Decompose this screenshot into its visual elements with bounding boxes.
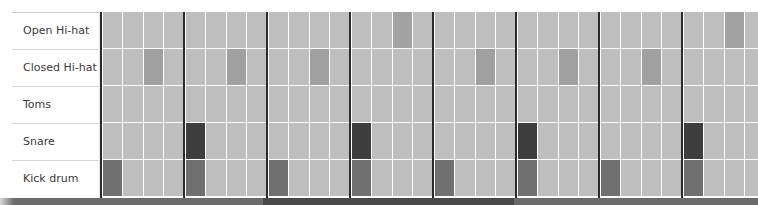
step-cell-kick-17-active[interactable]	[435, 160, 454, 196]
step-cell-toms-30[interactable]	[704, 86, 724, 122]
step-cell-snare-23[interactable]	[559, 123, 578, 159]
step-cell-snare-16[interactable]	[413, 123, 433, 159]
step-cell-open-13[interactable]	[352, 12, 371, 48]
step-cell-snare-4[interactable]	[164, 123, 184, 159]
step-cell-closed-18[interactable]	[455, 49, 475, 85]
step-cell-toms-26[interactable]	[621, 86, 641, 122]
step-cell-snare-5-active[interactable]	[186, 123, 205, 159]
step-cell-snare-31[interactable]	[725, 123, 744, 159]
step-cell-open-19[interactable]	[476, 12, 495, 48]
step-cell-open-20[interactable]	[496, 12, 516, 48]
step-cell-closed-12[interactable]	[330, 49, 350, 85]
step-cell-open-12[interactable]	[330, 12, 350, 48]
step-cell-snare-8[interactable]	[247, 123, 267, 159]
bottom-scroll-strip[interactable]	[0, 198, 758, 205]
step-cell-snare-29-active[interactable]	[684, 123, 703, 159]
step-cell-closed-30[interactable]	[704, 49, 724, 85]
step-cell-snare-11[interactable]	[310, 123, 329, 159]
step-cell-kick-3[interactable]	[144, 160, 163, 196]
step-cell-toms-3[interactable]	[144, 86, 163, 122]
step-cell-kick-5-active[interactable]	[186, 160, 205, 196]
step-cell-kick-26[interactable]	[621, 160, 641, 196]
step-cell-toms-2[interactable]	[123, 86, 143, 122]
step-cell-kick-28[interactable]	[662, 160, 682, 196]
step-cell-snare-28[interactable]	[662, 123, 682, 159]
step-cell-kick-15[interactable]	[393, 160, 412, 196]
step-cell-snare-25[interactable]	[601, 123, 620, 159]
step-cell-toms-4[interactable]	[164, 86, 184, 122]
step-cell-closed-32[interactable]	[745, 49, 758, 85]
step-cell-toms-7[interactable]	[227, 86, 246, 122]
step-cell-kick-16[interactable]	[413, 160, 433, 196]
step-cell-kick-6[interactable]	[206, 160, 226, 196]
step-cell-open-17[interactable]	[435, 12, 454, 48]
step-cell-kick-29-active[interactable]	[684, 160, 703, 196]
step-cell-kick-7[interactable]	[227, 160, 246, 196]
step-cell-closed-21[interactable]	[518, 49, 537, 85]
step-cell-toms-9[interactable]	[269, 86, 288, 122]
step-cell-open-7[interactable]	[227, 12, 246, 48]
step-cell-snare-3[interactable]	[144, 123, 163, 159]
step-cell-open-14[interactable]	[372, 12, 392, 48]
step-cell-toms-21[interactable]	[518, 86, 537, 122]
step-cell-kick-22[interactable]	[538, 160, 558, 196]
step-cell-toms-6[interactable]	[206, 86, 226, 122]
step-cell-open-8[interactable]	[247, 12, 267, 48]
step-cell-kick-18[interactable]	[455, 160, 475, 196]
step-cell-kick-8[interactable]	[247, 160, 267, 196]
step-cell-closed-13[interactable]	[352, 49, 371, 85]
step-cell-open-15-active[interactable]	[393, 12, 412, 48]
step-cell-snare-22[interactable]	[538, 123, 558, 159]
step-cell-closed-25[interactable]	[601, 49, 620, 85]
step-cell-kick-14[interactable]	[372, 160, 392, 196]
step-cell-closed-14[interactable]	[372, 49, 392, 85]
step-cell-open-29[interactable]	[684, 12, 703, 48]
step-cell-closed-24[interactable]	[579, 49, 599, 85]
step-cell-closed-10[interactable]	[289, 49, 309, 85]
step-cell-closed-7-active[interactable]	[227, 49, 246, 85]
step-cell-kick-2[interactable]	[123, 160, 143, 196]
step-cell-open-6[interactable]	[206, 12, 226, 48]
step-cell-toms-29[interactable]	[684, 86, 703, 122]
step-cell-open-28[interactable]	[662, 12, 682, 48]
step-cell-open-2[interactable]	[123, 12, 143, 48]
step-cell-toms-15[interactable]	[393, 86, 412, 122]
step-cell-toms-19[interactable]	[476, 86, 495, 122]
step-cell-toms-13[interactable]	[352, 86, 371, 122]
step-cell-closed-27-active[interactable]	[642, 49, 661, 85]
step-cell-closed-26[interactable]	[621, 49, 641, 85]
step-cell-open-22[interactable]	[538, 12, 558, 48]
step-cell-snare-7[interactable]	[227, 123, 246, 159]
step-cell-closed-17[interactable]	[435, 49, 454, 85]
step-cell-toms-27[interactable]	[642, 86, 661, 122]
scroll-thumb[interactable]	[263, 198, 514, 205]
step-cell-closed-29[interactable]	[684, 49, 703, 85]
step-cell-kick-1-active[interactable]	[103, 160, 122, 196]
step-cell-open-32[interactable]	[745, 12, 758, 48]
step-cell-closed-5[interactable]	[186, 49, 205, 85]
step-cell-closed-22[interactable]	[538, 49, 558, 85]
step-cell-closed-23-active[interactable]	[559, 49, 578, 85]
step-cell-kick-25-active[interactable]	[601, 160, 620, 196]
step-cell-toms-5[interactable]	[186, 86, 205, 122]
step-cell-toms-23[interactable]	[559, 86, 578, 122]
step-cell-snare-15[interactable]	[393, 123, 412, 159]
step-cell-toms-17[interactable]	[435, 86, 454, 122]
step-cell-open-24[interactable]	[579, 12, 599, 48]
step-cell-kick-32[interactable]	[745, 160, 758, 196]
step-cell-snare-1[interactable]	[103, 123, 122, 159]
step-cell-closed-28[interactable]	[662, 49, 682, 85]
step-cell-kick-31[interactable]	[725, 160, 744, 196]
step-cell-kick-10[interactable]	[289, 160, 309, 196]
step-cell-toms-32[interactable]	[745, 86, 758, 122]
step-cell-toms-24[interactable]	[579, 86, 599, 122]
step-cell-snare-18[interactable]	[455, 123, 475, 159]
step-cell-open-21[interactable]	[518, 12, 537, 48]
step-cell-open-23[interactable]	[559, 12, 578, 48]
step-cell-open-25[interactable]	[601, 12, 620, 48]
step-cell-toms-16[interactable]	[413, 86, 433, 122]
step-cell-snare-10[interactable]	[289, 123, 309, 159]
step-cell-kick-19[interactable]	[476, 160, 495, 196]
step-cell-snare-9[interactable]	[269, 123, 288, 159]
step-cell-snare-32[interactable]	[745, 123, 758, 159]
